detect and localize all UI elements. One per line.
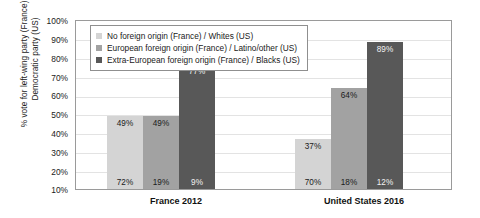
legend-item-european-foreign-origin[interactable]: European foreign origin (France) / Latin… bbox=[96, 42, 300, 54]
bar-share-label: 72% bbox=[107, 178, 143, 187]
category-label-france: France 2012 bbox=[106, 196, 246, 206]
bar-value-label: 49% bbox=[143, 119, 179, 128]
bar-us-whites[interactable]: 37% 70% bbox=[295, 139, 331, 189]
bar-france-extra-european-foreign-origin[interactable]: 77% 9% bbox=[179, 64, 215, 189]
legend-swatch-icon bbox=[96, 57, 102, 63]
legend-label: No foreign origin (France) / Whites (US) bbox=[107, 31, 253, 41]
y-tick-30: 30% bbox=[22, 148, 68, 158]
y-tick-60: 60% bbox=[22, 91, 68, 101]
bar-value-label: 64% bbox=[331, 91, 367, 100]
bar-chart: % vote for left-wing party (France) or D… bbox=[0, 0, 480, 218]
legend-item-extra-european-foreign-origin[interactable]: Extra-European foreign origin (France) /… bbox=[96, 54, 300, 66]
y-tick-100: 100% bbox=[22, 16, 68, 26]
y-tick-10: 10% bbox=[22, 185, 68, 195]
bar-france-european-foreign-origin[interactable]: 49% 19% bbox=[143, 116, 179, 189]
legend-label: Extra-European foreign origin (France) /… bbox=[107, 55, 300, 65]
legend-swatch-icon bbox=[96, 45, 102, 51]
y-tick-40: 40% bbox=[22, 129, 68, 139]
legend-swatch-icon bbox=[96, 33, 102, 39]
y-tick-70: 70% bbox=[22, 73, 68, 83]
y-tick-50: 50% bbox=[22, 110, 68, 120]
bar-share-label: 9% bbox=[179, 178, 215, 187]
bar-value-label: 89% bbox=[367, 45, 403, 54]
bar-value-label: 37% bbox=[295, 142, 331, 151]
bar-us-latino-other[interactable]: 64% 18% bbox=[331, 88, 367, 189]
plot-area: 49% 72% 49% 19% 77% 9% 37% 70% 64% 18% 8… bbox=[75, 20, 452, 190]
bar-share-label: 12% bbox=[367, 178, 403, 187]
bar-us-blacks[interactable]: 89% 12% bbox=[367, 42, 403, 189]
bar-share-label: 70% bbox=[295, 178, 331, 187]
y-tick-80: 80% bbox=[22, 54, 68, 64]
legend-item-no-foreign-origin[interactable]: No foreign origin (France) / Whites (US) bbox=[96, 30, 300, 42]
legend-label: European foreign origin (France) / Latin… bbox=[107, 43, 297, 53]
bar-share-label: 18% bbox=[331, 178, 367, 187]
bar-france-no-foreign-origin[interactable]: 49% 72% bbox=[107, 116, 143, 189]
bar-value-label: 49% bbox=[107, 119, 143, 128]
bar-share-label: 19% bbox=[143, 178, 179, 187]
y-tick-90: 90% bbox=[22, 35, 68, 45]
legend: No foreign origin (France) / Whites (US)… bbox=[90, 25, 308, 71]
y-tick-20: 20% bbox=[22, 167, 68, 177]
category-label-united-states: United States 2016 bbox=[284, 196, 444, 206]
